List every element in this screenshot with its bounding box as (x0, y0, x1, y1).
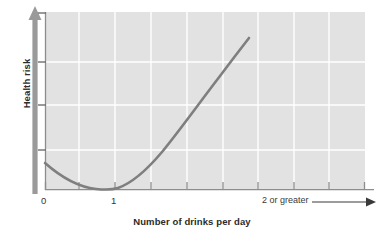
x-tick-label-0: 0 (41, 195, 46, 206)
x-tick-label-1: 1 (111, 195, 116, 206)
x-axis-title: Number of drinks per day (0, 216, 384, 227)
up-arrow-icon (28, 6, 42, 194)
x-tick-label-2-or-greater: 2 or greater (262, 195, 309, 205)
chart-figure: Health risk (0, 0, 384, 238)
right-arrow-icon (312, 197, 376, 207)
plot-area (45, 12, 365, 190)
